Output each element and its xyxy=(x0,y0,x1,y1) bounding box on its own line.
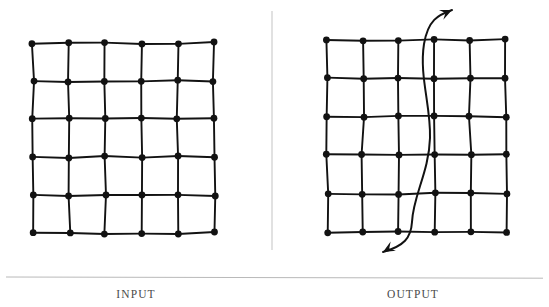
lattice-node xyxy=(359,229,366,236)
lattice-edge-horizontal xyxy=(178,232,214,234)
lattice-node xyxy=(103,192,110,199)
lattice-node xyxy=(432,189,439,196)
lattice-edge-vertical xyxy=(398,116,399,155)
lattice-edge-vertical xyxy=(327,78,328,117)
horizontal-rule xyxy=(6,277,543,278)
lattice-node xyxy=(138,230,145,237)
lattice-node xyxy=(65,39,72,46)
lattice-node xyxy=(212,193,219,200)
lattice-node xyxy=(30,229,37,236)
lattice-node xyxy=(468,151,475,158)
lattice-edge-horizontal xyxy=(105,156,143,158)
lattice-edge-vertical xyxy=(178,44,179,80)
lattice-edge-horizontal xyxy=(364,116,398,117)
lattice-node xyxy=(101,39,108,46)
lattice-edge-vertical xyxy=(177,119,178,156)
lattice-node xyxy=(467,75,474,82)
lattice-node xyxy=(466,37,473,44)
lattice-node xyxy=(101,153,108,160)
lattice-edge-vertical xyxy=(33,157,34,195)
lattice-node xyxy=(324,74,331,81)
lattice-edge-horizontal xyxy=(398,78,434,79)
lattice-node xyxy=(395,113,402,120)
lattice-edge-horizontal xyxy=(34,81,68,82)
lattice-node xyxy=(395,37,402,44)
lattice-edge-horizontal xyxy=(178,42,214,44)
lattice-edge-horizontal xyxy=(141,80,178,81)
lattice-edge-horizontal xyxy=(178,156,214,157)
lattice-node xyxy=(503,114,510,121)
lattice-node xyxy=(211,154,218,161)
lattice-node xyxy=(101,78,108,85)
lattice-edge-horizontal xyxy=(327,78,363,79)
lattice-node xyxy=(431,75,438,82)
lattice-edge-vertical xyxy=(105,118,106,156)
lattice-edge-vertical xyxy=(213,42,214,82)
lattice-node xyxy=(29,154,36,161)
lattice-node xyxy=(431,229,438,236)
lattice-node xyxy=(324,229,331,236)
lattice-edge-vertical xyxy=(214,118,215,157)
lattice-edge-horizontal xyxy=(69,195,106,196)
lattice-node xyxy=(139,41,146,48)
lattice-node xyxy=(431,36,438,43)
lattice-node xyxy=(323,151,330,158)
lattice-edge-vertical xyxy=(471,155,472,193)
lattice-node xyxy=(175,231,182,238)
lattice-node xyxy=(396,152,403,159)
panel-output xyxy=(323,10,511,252)
lattice-node xyxy=(30,192,37,199)
lattice-nodes xyxy=(323,36,511,237)
lattice-edge-vertical xyxy=(141,118,142,158)
lattice-edge-vertical xyxy=(32,81,34,119)
lattice-edge-horizontal xyxy=(469,116,506,117)
lattice-node xyxy=(65,193,72,200)
lattice-node xyxy=(211,229,218,236)
lattice-edge-vertical xyxy=(104,82,105,119)
lattice-edge-horizontal xyxy=(177,118,214,119)
lattice-node xyxy=(467,190,474,197)
lattice-edge-horizontal xyxy=(70,233,104,234)
lattice-node xyxy=(65,155,72,162)
lattice-edge-vertical xyxy=(32,44,34,81)
lattice-edge-vertical xyxy=(105,156,106,195)
lattice-edge-vertical xyxy=(362,154,363,194)
lattice-node xyxy=(502,36,509,43)
caption-input: INPUT xyxy=(0,288,272,300)
lattice-node xyxy=(31,78,38,85)
lattice-edge-horizontal xyxy=(141,118,176,119)
lattice-edge-vertical xyxy=(469,116,471,154)
lattice-edge-horizontal xyxy=(363,231,398,232)
lattice-edge-horizontal xyxy=(364,78,398,79)
lattice-edge-vertical xyxy=(177,80,178,119)
lattice-edge-vertical xyxy=(326,40,327,78)
lattice-edge-horizontal xyxy=(178,80,213,81)
lattice-node xyxy=(395,228,402,235)
lattice-node xyxy=(211,39,218,46)
lattice-edge-vertical xyxy=(68,43,69,82)
lattice-edge-vertical xyxy=(469,78,471,116)
lattice-node xyxy=(65,79,72,86)
lattice-grid-output xyxy=(323,36,511,237)
lattice-node xyxy=(431,113,438,120)
lattice-node xyxy=(503,151,510,158)
lattice-edge-horizontal xyxy=(434,39,470,40)
panel-input xyxy=(29,39,219,238)
lattice-edge-vertical xyxy=(141,44,142,81)
lattice-edge-vertical xyxy=(470,40,471,78)
lattice-node xyxy=(358,151,365,158)
lattice-edge-horizontal xyxy=(471,193,507,194)
caption-output: OUTPUT xyxy=(277,288,549,300)
lattice-edge-vertical xyxy=(362,117,364,154)
lattice-edge-vertical xyxy=(68,82,69,118)
lattice-edge-horizontal xyxy=(32,43,69,44)
arrow-head xyxy=(383,242,396,253)
lattice-node xyxy=(504,191,511,198)
lattice-edge-vertical xyxy=(326,154,328,194)
lattice-node xyxy=(175,191,182,198)
lattice-edge-vertical xyxy=(435,155,436,193)
lattice-node xyxy=(503,229,510,236)
lattice-edge-vertical xyxy=(214,196,215,232)
lattice-node xyxy=(29,115,36,122)
lattice-node xyxy=(173,115,180,122)
